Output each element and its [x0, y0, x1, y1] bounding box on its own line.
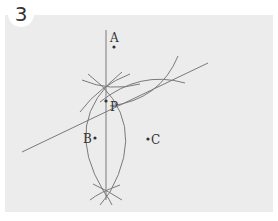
label-p: P: [110, 100, 118, 114]
point-a-dot: [112, 45, 115, 48]
upper-arc-left: [80, 74, 130, 112]
label-b: B: [83, 132, 92, 146]
point-p-dot: [104, 99, 107, 102]
bottom-arc-left: [90, 185, 120, 200]
label-c: C: [151, 133, 160, 147]
point-b-dot: [93, 136, 96, 139]
point-c-dot: [146, 137, 149, 140]
label-a: A: [109, 31, 119, 45]
geometry-diagram: A B C P: [0, 0, 278, 221]
